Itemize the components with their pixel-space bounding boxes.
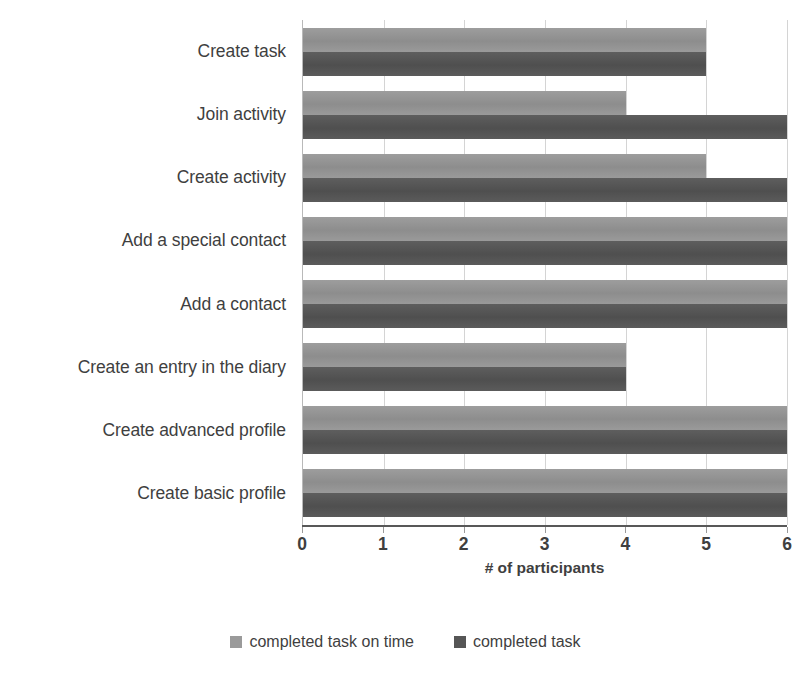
bar-completed-task-on-time — [303, 217, 787, 241]
bar-completed-task — [303, 430, 787, 454]
bar-completed-task — [303, 241, 787, 265]
tick-label: 5 — [701, 534, 711, 555]
x-axis-tick-labels: 0123456 — [302, 534, 787, 558]
bar-group — [303, 146, 787, 209]
category-axis: Create taskJoin activityCreate activityA… — [0, 20, 296, 525]
chart-legend: completed task on timecompleted task — [0, 633, 811, 651]
category-label: Create advanced profile — [0, 399, 296, 462]
bar-completed-task-on-time — [303, 343, 626, 367]
category-label: Create task — [0, 20, 296, 83]
legend-swatch-light-icon — [230, 636, 242, 648]
bar-group — [303, 462, 787, 525]
bar-groups — [303, 20, 787, 525]
legend-item[interactable]: completed task — [454, 633, 581, 651]
legend-label: completed task — [473, 633, 581, 651]
tick-label: 3 — [540, 534, 550, 555]
bar-completed-task-on-time — [303, 91, 626, 115]
tick-mark — [545, 527, 546, 533]
bar-completed-task — [303, 52, 706, 76]
bar-group — [303, 336, 787, 399]
bar-completed-task — [303, 367, 626, 391]
tick-label: 0 — [297, 534, 307, 555]
category-label: Join activity — [0, 83, 296, 146]
tick-mark — [464, 527, 465, 533]
bar-group — [303, 399, 787, 462]
bar-completed-task-on-time — [303, 154, 706, 178]
bar-completed-task — [303, 493, 787, 517]
tick-mark — [383, 527, 384, 533]
bar-chart: Create taskJoin activityCreate activityA… — [0, 0, 811, 682]
category-label: Create basic profile — [0, 462, 296, 525]
legend-swatch-dark-icon — [454, 636, 466, 648]
legend-item[interactable]: completed task on time — [230, 633, 414, 651]
bar-group — [303, 273, 787, 336]
bar-completed-task-on-time — [303, 406, 787, 430]
tick-mark — [787, 527, 788, 533]
category-label: Add a contact — [0, 273, 296, 336]
bar-completed-task — [303, 115, 787, 139]
bar-group — [303, 20, 787, 83]
category-label: Add a special contact — [0, 209, 296, 272]
tick-label: 1 — [378, 534, 388, 555]
bar-completed-task-on-time — [303, 280, 787, 304]
bar-group — [303, 209, 787, 272]
category-label: Create activity — [0, 146, 296, 209]
bar-completed-task — [303, 304, 787, 328]
plot-area — [302, 20, 787, 525]
bar-completed-task — [303, 178, 787, 202]
category-label: Create an entry in the diary — [0, 336, 296, 399]
gridline — [787, 20, 788, 525]
tick-mark — [302, 527, 303, 533]
bar-completed-task-on-time — [303, 28, 706, 52]
tick-label: 6 — [782, 534, 792, 555]
tick-mark — [706, 527, 707, 533]
tick-mark — [625, 527, 626, 533]
bar-completed-task-on-time — [303, 469, 787, 493]
x-axis-title: # of participants — [302, 559, 787, 577]
bar-group — [303, 83, 787, 146]
x-axis-ticks — [302, 527, 787, 534]
legend-label: completed task on time — [249, 633, 414, 651]
tick-label: 4 — [620, 534, 630, 555]
tick-label: 2 — [459, 534, 469, 555]
